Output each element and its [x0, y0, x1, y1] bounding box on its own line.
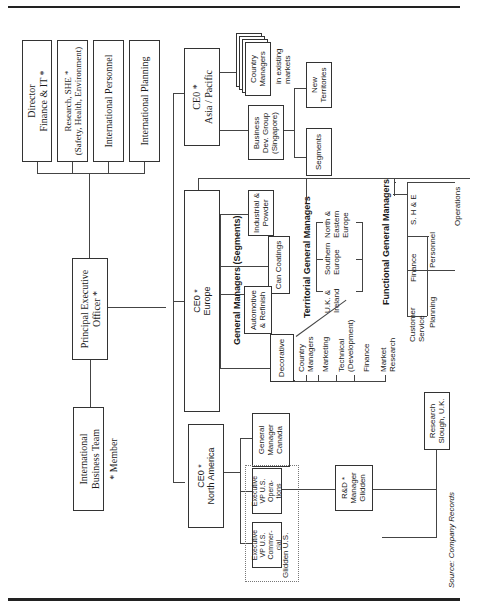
- glidden-us-label: Glidden U.S.: [282, 533, 291, 578]
- ceo-asia-pacific-box: CE0 *Asia / Pacific: [184, 48, 220, 146]
- staff-box-intl-personnel: International Personnel: [93, 40, 124, 162]
- territory-southern-europe: SouthernEurope: [324, 243, 342, 275]
- decor-function-marketing: Marketing: [322, 337, 331, 372]
- decor-function-market-research: MarketResearch: [380, 338, 398, 372]
- decor-function-finance: Finance: [363, 344, 372, 372]
- territory-north-eastern-europe: North &EasternEurope: [324, 210, 350, 238]
- country-managers-box: CountryManagers: [245, 42, 271, 96]
- segment-decorative-box: Decorative: [270, 334, 294, 382]
- functional-operations: Operations: [454, 187, 463, 226]
- territorial-title: Territorial General Managers: [303, 196, 313, 318]
- ibt-member-note: * Member: [103, 407, 123, 511]
- functional-title: Functional General Managers: [382, 179, 392, 305]
- bottom-rule: [8, 598, 460, 601]
- ceo-europe-box: CE0 *Europe: [184, 190, 220, 412]
- decor-function-technical: Technical(Development): [338, 320, 356, 372]
- functional-she: S. H & E: [410, 194, 419, 225]
- country-managers-note: in existingmarkets: [275, 48, 293, 84]
- gm-canada-box: GeneralManagerCanada: [252, 413, 290, 467]
- segment-automotive-refinish-box: Automotive& Refinish: [244, 286, 272, 334]
- evp-us-commercial-box: ExecutiveVP U.S.Commer-cial: [252, 522, 282, 568]
- rd-manager-glidden-box: R&D *ManagerGlidden: [335, 465, 373, 511]
- principal-executive-officer-box: Principal ExecutiveOfficer *: [72, 258, 108, 360]
- segments-box: Segments: [306, 128, 332, 176]
- business-dev-group-box: BusinessDev. Group(Singapore): [248, 105, 284, 160]
- decor-function-country-managers: CountryManagers: [298, 336, 316, 372]
- staff-box-research-she: Research, SHE *(Safety, Health, Environm…: [57, 40, 88, 162]
- top-rule: [8, 6, 460, 8]
- international-business-team-box: * Member InternationalBusiness Team: [73, 407, 123, 511]
- functional-customer-service: CustomerService: [409, 307, 427, 342]
- functional-finance: Finance: [410, 254, 419, 282]
- functional-planning: Planning: [429, 297, 438, 328]
- gm-segments-title: General Managers (Segments): [233, 215, 243, 345]
- functional-personnel: Personnel: [429, 232, 438, 268]
- research-slough-box: ResearchSlough, U.K.: [424, 392, 450, 450]
- evp-us-operations-box: ExecutiveVP U.S.Opera-tions: [252, 468, 282, 514]
- staff-box-director-finance: DirectorFinance & IT *: [22, 40, 52, 162]
- new-territories-box: NewTerritories: [306, 62, 332, 108]
- source-footnote: Source: Company Records: [448, 492, 457, 588]
- segment-industrial-powder-box: Industrial &Powder: [248, 190, 274, 236]
- staff-box-intl-planning: International Planning: [129, 40, 160, 162]
- ceo-north-america-box: CE0 *North America: [188, 424, 224, 528]
